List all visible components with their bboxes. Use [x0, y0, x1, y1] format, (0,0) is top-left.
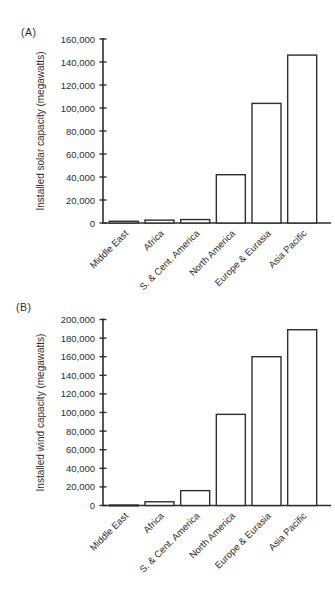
- bar-s-cent-america: [181, 491, 210, 506]
- x-category-label: Asia Pacific: [266, 510, 309, 553]
- y-tick-label: 40,000: [66, 463, 95, 474]
- y-tick-label: 60,000: [66, 149, 95, 160]
- y-tick-label: 120,000: [61, 80, 95, 91]
- y-tick-label: 160,000: [61, 351, 95, 362]
- bar-asia-pacific: [288, 55, 317, 223]
- y-tick-label: 140,000: [61, 370, 95, 381]
- x-category-label: S. & Cent. America: [137, 227, 202, 292]
- bar-europe-eurasia: [252, 357, 281, 506]
- y-tick-label: 100,000: [61, 103, 95, 114]
- y-tick-label: 0: [90, 218, 95, 229]
- y-tick-label: 180,000: [61, 333, 95, 344]
- bar-europe-eurasia: [252, 103, 281, 223]
- y-tick-label: 100,000: [61, 407, 95, 418]
- bar-middle-east: [109, 505, 138, 506]
- x-category-label: Middle East: [87, 510, 130, 553]
- solar-capacity-bar-chart: 020,00040,00060,00080,000100,000120,0001…: [0, 0, 335, 297]
- bar-north-america: [216, 175, 245, 223]
- x-category-label: S. & Cent. America: [137, 510, 202, 575]
- y-tick-label: 20,000: [66, 481, 95, 492]
- y-tick-label: 80,000: [66, 126, 95, 137]
- y-tick-label: 40,000: [66, 172, 95, 183]
- y-axis-title: Installed solar capacity (megawatts): [35, 52, 46, 211]
- y-tick-label: 120,000: [61, 388, 95, 399]
- y-tick-label: 60,000: [66, 444, 95, 455]
- y-axis-title: Installed wind capacity (megawatts): [35, 334, 46, 492]
- two-panel-bar-figure: (A) 020,00040,00060,00080,000100,000120,…: [0, 0, 335, 597]
- bar-north-america: [216, 414, 245, 505]
- wind-capacity-bar-chart: 020,00040,00060,00080,000100,000120,0001…: [0, 297, 335, 597]
- x-category-label: Asia Pacific: [266, 227, 309, 270]
- bar-africa: [145, 502, 174, 506]
- bar-africa: [145, 220, 174, 223]
- bar-s-cent-america: [181, 220, 210, 223]
- y-tick-label: 140,000: [61, 57, 95, 68]
- x-category-label: Middle East: [87, 227, 130, 270]
- y-tick-label: 80,000: [66, 426, 95, 437]
- bar-middle-east: [109, 221, 138, 223]
- y-tick-label: 200,000: [61, 314, 95, 325]
- y-tick-label: 0: [90, 500, 95, 511]
- x-category-label: Africa: [141, 227, 166, 252]
- y-tick-label: 20,000: [66, 195, 95, 206]
- x-category-label: Africa: [141, 510, 166, 535]
- y-tick-label: 160,000: [61, 34, 95, 45]
- bar-asia-pacific: [288, 330, 317, 506]
